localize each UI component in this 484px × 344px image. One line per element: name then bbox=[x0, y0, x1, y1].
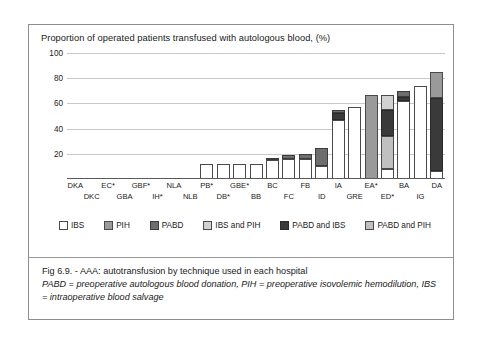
bar-segment bbox=[282, 159, 295, 179]
x-axis-label: GBE* bbox=[231, 181, 247, 207]
bar-slot bbox=[248, 53, 264, 179]
bar-segment bbox=[332, 120, 345, 179]
bar-slot bbox=[182, 53, 198, 179]
bar-slot bbox=[363, 53, 379, 179]
x-axis-label-text: BB bbox=[251, 192, 261, 201]
bar-slot bbox=[264, 53, 280, 179]
legend-item[interactable]: PIH bbox=[104, 221, 130, 230]
bar-segment bbox=[397, 101, 410, 179]
x-axis-label-text: EA* bbox=[365, 181, 378, 190]
chart-title: Proportion of operated patients transfus… bbox=[41, 33, 330, 43]
bar-stack[interactable] bbox=[381, 95, 394, 179]
bar-stack[interactable] bbox=[397, 91, 410, 179]
x-axis-label-text: BA bbox=[399, 181, 409, 190]
x-axis-label: EA* bbox=[363, 181, 379, 207]
bar-segment bbox=[299, 159, 312, 179]
bar-segment bbox=[348, 107, 361, 179]
x-axis-label: IG bbox=[412, 181, 428, 207]
bar-stack[interactable] bbox=[200, 164, 213, 179]
bars-layer bbox=[67, 53, 445, 179]
x-axis-label-text: IG bbox=[416, 192, 424, 201]
x-axis-label-text: ID bbox=[318, 192, 326, 201]
legend-item[interactable]: PABD and IBS bbox=[280, 221, 345, 230]
x-axis-label: DKA bbox=[67, 181, 83, 207]
bar-stack[interactable] bbox=[299, 154, 312, 179]
x-axis-label: ED* bbox=[379, 181, 395, 207]
legend-swatch bbox=[59, 221, 68, 230]
x-axis-label: FB bbox=[297, 181, 313, 207]
x-axis-label-text: DKC bbox=[84, 192, 100, 201]
x-axis-label: FC bbox=[281, 181, 297, 207]
x-axis-label: IH* bbox=[149, 181, 165, 207]
chart-legend: IBSPIHPABDIBS and PIHPABD and IBSPABD an… bbox=[59, 221, 431, 230]
legend-item[interactable]: IBS and PIH bbox=[203, 221, 260, 230]
x-axis-label: ID bbox=[314, 181, 330, 207]
legend-label: PABD and PIH bbox=[377, 221, 431, 230]
legend-label: PABD and IBS bbox=[292, 221, 345, 230]
legend-label: PIH bbox=[116, 221, 130, 230]
x-axis-label: DA bbox=[429, 181, 445, 207]
x-axis-label: IA bbox=[330, 181, 346, 207]
bar-segment bbox=[250, 164, 263, 179]
bar-segment bbox=[430, 98, 443, 171]
bar-slot bbox=[166, 53, 182, 179]
bar-slot bbox=[297, 53, 313, 179]
legend-item[interactable]: PABD bbox=[150, 221, 184, 230]
bar-segment bbox=[315, 148, 328, 167]
bar-segment bbox=[200, 164, 213, 179]
y-axis-tick-label: 20 bbox=[54, 149, 63, 158]
legend-label: IBS and PIH bbox=[215, 221, 260, 230]
legend-item[interactable]: IBS bbox=[59, 221, 84, 230]
bar-slot bbox=[199, 53, 215, 179]
legend-swatch bbox=[104, 221, 113, 230]
bar-stack[interactable] bbox=[315, 148, 328, 179]
bar-stack[interactable] bbox=[414, 86, 427, 179]
bar-stack[interactable] bbox=[365, 95, 378, 179]
x-axis-label: NLA bbox=[166, 181, 182, 207]
legend-item[interactable]: PABD and PIH bbox=[365, 221, 431, 230]
x-axis-label: BA bbox=[396, 181, 412, 207]
x-axis-label: GBF* bbox=[133, 181, 149, 207]
x-axis-label: GBA bbox=[116, 181, 132, 207]
y-axis-tick-label: 40 bbox=[54, 124, 63, 133]
bar-segment bbox=[365, 95, 378, 179]
bar-segment bbox=[381, 110, 394, 136]
bar-slot bbox=[215, 53, 231, 179]
x-axis-label: DKC bbox=[83, 181, 99, 207]
figure-panel: Proportion of operated patients transfus… bbox=[28, 24, 454, 320]
x-axis-label-text: GBA bbox=[117, 192, 133, 201]
bar-stack[interactable] bbox=[250, 164, 263, 179]
x-axis-label: NLB bbox=[182, 181, 198, 207]
legend-label: PABD bbox=[162, 221, 184, 230]
bar-segment bbox=[381, 95, 394, 110]
bar-slot bbox=[281, 53, 297, 179]
y-axis-tick-label: 80 bbox=[54, 74, 63, 83]
legend-label: IBS bbox=[71, 221, 84, 230]
caption-line-2: PABD = preoperative autologous blood don… bbox=[42, 278, 442, 304]
bar-stack[interactable] bbox=[282, 155, 295, 179]
bar-slot bbox=[396, 53, 412, 179]
x-axis-label-text: DKA bbox=[67, 181, 83, 190]
bar-segment bbox=[381, 136, 394, 169]
bar-stack[interactable] bbox=[233, 164, 246, 179]
bar-slot bbox=[231, 53, 247, 179]
legend-swatch bbox=[365, 221, 374, 230]
x-axis-label-text: GBF* bbox=[132, 181, 151, 190]
caption-line-1: Fig 6.9. - AAA: autotransfusion by techn… bbox=[42, 265, 442, 278]
bar-stack[interactable] bbox=[217, 164, 230, 179]
bar-slot bbox=[379, 53, 395, 179]
bar-stack[interactable] bbox=[332, 110, 345, 179]
bar-segment bbox=[217, 164, 230, 179]
x-axis-label-text: DB* bbox=[216, 192, 230, 201]
bar-stack[interactable] bbox=[430, 72, 443, 179]
figure-caption: Fig 6.9. - AAA: autotransfusion by techn… bbox=[42, 265, 442, 304]
x-axis-label-text: BC bbox=[267, 181, 278, 190]
bar-stack[interactable] bbox=[348, 107, 361, 179]
bar-stack[interactable] bbox=[266, 158, 279, 179]
bar-segment bbox=[414, 86, 427, 179]
y-axis-tick-label: 100 bbox=[49, 49, 63, 58]
x-axis-label: GRE bbox=[346, 181, 362, 207]
caption-divider bbox=[29, 257, 453, 258]
y-axis-tick-label: 60 bbox=[54, 99, 63, 108]
bar-slot bbox=[133, 53, 149, 179]
